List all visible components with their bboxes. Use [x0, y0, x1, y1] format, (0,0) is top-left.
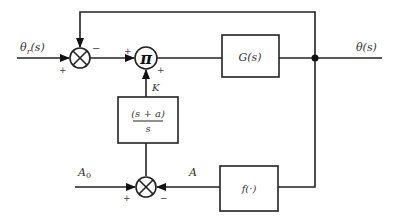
sign-summer1-input: +	[59, 65, 67, 75]
reference-amplitude-label: A0	[77, 166, 91, 180]
compensator-numerator: (s + a)	[131, 108, 165, 119]
input-label: θr(s)	[20, 41, 45, 56]
gain-label: K	[151, 82, 160, 93]
compensator-denominator: s	[145, 123, 150, 134]
sign-summer1-feedback: −	[92, 43, 100, 54]
output-label: θ(s)	[356, 41, 377, 54]
compensator-block	[118, 97, 178, 143]
block-diagram: θr(s) θ(s) G(s) π K (s + a) s f(·) A0 A …	[0, 0, 397, 224]
sign-multiplier-bottom: +	[157, 65, 165, 75]
inner-feedback-line	[278, 58, 315, 187]
summing-junction-2	[136, 177, 156, 197]
sign-multiplier-left: +	[124, 46, 132, 56]
takeoff-point	[312, 55, 319, 62]
summing-junction-1	[70, 48, 90, 68]
multiplier-symbol: π	[139, 49, 152, 68]
plant-block-label: G(s)	[238, 51, 261, 64]
sign-summer2-right: −	[160, 193, 168, 203]
nonlinear-block-label: f(·)	[241, 183, 257, 194]
sign-summer2-left: +	[123, 193, 131, 203]
feedback-amplitude-label: A	[188, 166, 197, 179]
